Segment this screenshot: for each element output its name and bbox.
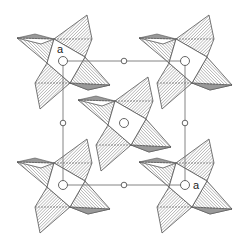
crystal-structure-diagram: a a [0, 0, 247, 243]
axis-label-a-bottom: a [193, 179, 200, 191]
axis-label-a-top: a [57, 43, 64, 55]
